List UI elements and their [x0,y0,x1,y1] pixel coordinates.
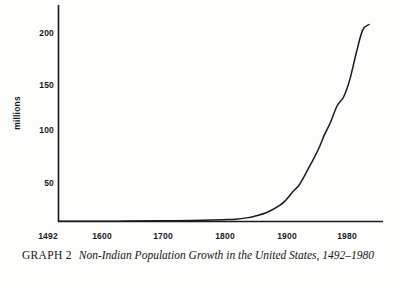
x-tick-label-1600: 1600 [82,231,122,241]
caption-title: Non-Indian Population Growth in the Unit… [79,249,374,261]
y-axis-title: millions [12,83,22,143]
y-tick-label-150: 150 [28,80,54,90]
x-tick-label-1492: 1492 [28,231,68,241]
figure-caption: GRAPH 2Non-Indian Population Growth in t… [22,248,392,263]
graph-figure: 200 150 100 50 millions 1492 1600 1700 1… [0,0,402,286]
population-growth-chart [0,0,402,286]
x-tick-label-1700: 1700 [143,231,183,241]
x-tick-label-1900: 1900 [267,231,307,241]
x-tick-label-1800: 1800 [205,231,245,241]
y-tick-label-50: 50 [28,178,54,188]
y-tick-label-100: 100 [28,125,54,135]
population-curve [59,25,369,222]
y-tick-label-200: 200 [28,28,54,38]
caption-label: GRAPH 2 [22,249,72,261]
x-tick-label-1980: 1980 [327,231,367,241]
